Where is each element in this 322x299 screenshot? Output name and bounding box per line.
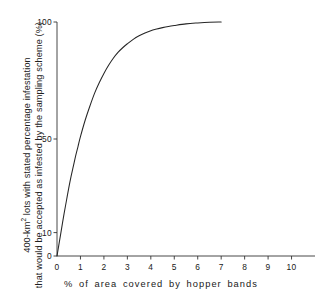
y-tick-label: 100 <box>20 17 52 27</box>
x-tick-label: 9 <box>266 262 271 272</box>
figure: that would be accepted as infested by th… <box>0 0 322 299</box>
x-tick-label: 10 <box>287 262 297 272</box>
x-tick-label: 0 <box>55 262 60 272</box>
x-tick-label: 5 <box>172 262 177 272</box>
x-tick-label: 8 <box>242 262 247 272</box>
x-tick-label: 2 <box>101 262 106 272</box>
axis-lines <box>57 22 315 256</box>
x-tick-label: 7 <box>219 262 224 272</box>
y-tick-label: 50 <box>20 134 52 144</box>
x-tick-label: 4 <box>148 262 153 272</box>
x-tick-label: 6 <box>195 262 200 272</box>
y-tick-label: 0 <box>20 251 52 261</box>
x-axis-ticks <box>80 256 291 260</box>
x-tick-label: 1 <box>78 262 83 272</box>
x-tick-label: 3 <box>125 262 130 272</box>
x-axis-title: % of area covered by hopper bands <box>0 279 322 289</box>
y-axis-ticks <box>54 22 58 256</box>
data-line-acceptance-curve <box>57 22 221 256</box>
y-tick-label: 10 <box>20 228 52 238</box>
